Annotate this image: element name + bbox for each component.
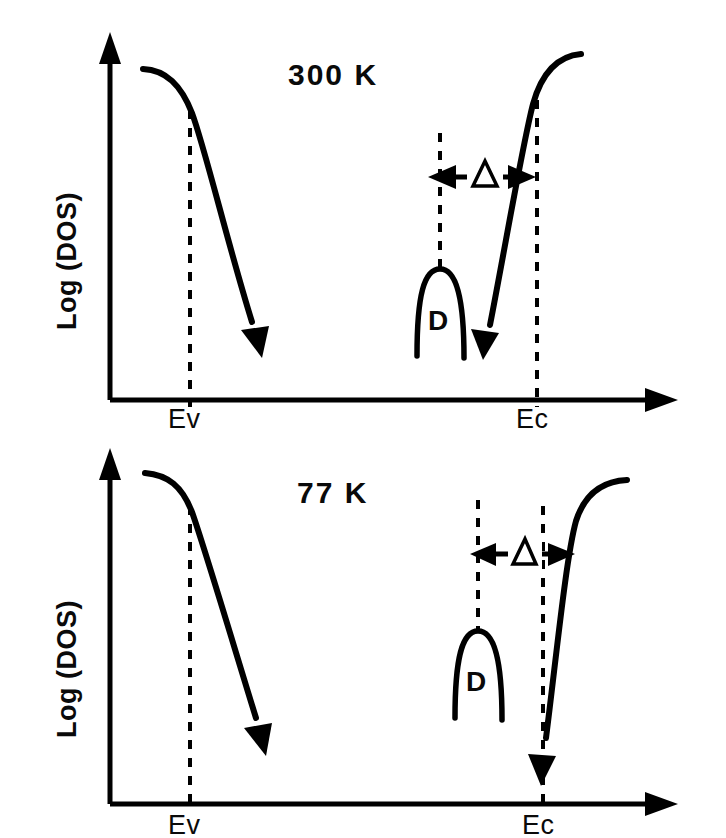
- valence-tail-arrowhead-icon: [244, 723, 272, 756]
- y-axis-300k: [99, 32, 121, 400]
- y-axis-77k: [99, 448, 121, 804]
- defect-band-label-77k: D: [466, 666, 487, 698]
- x-axis-arrowhead-icon: [645, 792, 678, 816]
- conduction-band-tail-300k: [471, 54, 581, 360]
- panel-77k: Log (DOS) 77 K D Ev Ec: [0, 418, 726, 838]
- temperature-label-77k: 77 K: [297, 476, 368, 510]
- valence-band-tail-77k: [145, 473, 272, 756]
- figure-root: Log (DOS) 300 K D Ev Ec: [0, 0, 726, 838]
- conduction-tail-arrowhead-icon: [528, 754, 556, 786]
- delta-left-arrowhead-icon: [470, 543, 496, 566]
- temperature-label-300k: 300 K: [288, 58, 378, 92]
- y-axis-arrowhead-icon: [99, 32, 121, 64]
- tick-label-ec-77k: Ec: [522, 810, 555, 838]
- panel-300k: Log (DOS) 300 K D Ev Ec: [0, 0, 726, 420]
- x-axis-arrowhead-icon: [645, 388, 678, 412]
- valence-band-tail-300k: [143, 69, 269, 358]
- y-axis-label-77k: Log (DOS): [52, 600, 83, 738]
- delta-left-arrowhead-icon: [428, 165, 456, 189]
- y-axis-arrowhead-icon: [99, 448, 121, 480]
- delta-span-arrow-77k: [470, 538, 575, 570]
- tick-label-ev-77k: Ev: [168, 810, 201, 838]
- valence-tail-arrowhead-icon: [241, 326, 269, 358]
- y-axis-label-300k: Log (DOS): [52, 192, 83, 330]
- conduction-tail-arrowhead-icon: [471, 329, 499, 360]
- defect-band-label-300k: D: [428, 305, 449, 337]
